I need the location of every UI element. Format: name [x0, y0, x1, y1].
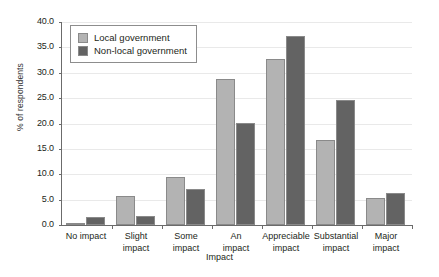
y-axis-tick-label: 0.0 — [14, 219, 54, 229]
y-axis-tick-label: 5.0 — [14, 194, 54, 204]
bar[interactable] — [216, 79, 235, 225]
bar[interactable] — [136, 216, 155, 225]
y-axis-tick-label: 40.0 — [14, 16, 54, 26]
legend: Local government Non-local government — [70, 25, 197, 63]
y-axis-tick-label: 20.0 — [14, 118, 54, 128]
bar[interactable] — [266, 59, 285, 225]
bar[interactable] — [166, 177, 185, 225]
bar[interactable] — [366, 198, 385, 225]
legend-label: Non-local government — [94, 45, 187, 56]
bar-group — [262, 22, 312, 225]
bar[interactable] — [316, 140, 335, 225]
bar[interactable] — [186, 189, 205, 225]
bar[interactable] — [86, 217, 105, 225]
y-axis-tick-mark — [59, 225, 62, 226]
bar-group — [362, 22, 412, 225]
y-axis-tick-label: 35.0 — [14, 41, 54, 51]
legend-swatch-local-government — [78, 33, 88, 43]
x-axis-tick-mark — [312, 225, 313, 229]
legend-label: Local government — [94, 32, 170, 43]
y-axis-tick-label: 30.0 — [14, 67, 54, 77]
x-axis-category-line: Major — [349, 231, 423, 243]
bar[interactable] — [286, 36, 305, 225]
bar[interactable] — [236, 123, 255, 225]
legend-swatch-non-local-government — [78, 46, 88, 56]
x-axis-tick-mark — [262, 225, 263, 229]
y-axis-tick-label: 25.0 — [14, 92, 54, 102]
x-axis-tick-mark — [162, 225, 163, 229]
x-axis-tick-mark — [212, 225, 213, 229]
y-axis-tick-label: 15.0 — [14, 143, 54, 153]
x-axis-tick-mark — [362, 225, 363, 229]
x-axis-title: Impact — [0, 252, 439, 262]
bar[interactable] — [116, 196, 135, 225]
y-axis-tick-label: 10.0 — [14, 168, 54, 178]
bar[interactable] — [386, 193, 405, 225]
bar-chart: % of respondents 0.05.010.015.020.025.03… — [0, 0, 439, 277]
x-axis-category-label: Majorimpact — [349, 231, 423, 254]
legend-item: Non-local government — [78, 44, 187, 57]
legend-item: Local government — [78, 31, 187, 44]
x-axis-tick-mark — [112, 225, 113, 229]
bar-group — [212, 22, 262, 225]
x-axis-tick-mark — [412, 225, 413, 229]
bar[interactable] — [66, 223, 85, 225]
bar[interactable] — [336, 100, 355, 225]
bar-group — [312, 22, 362, 225]
